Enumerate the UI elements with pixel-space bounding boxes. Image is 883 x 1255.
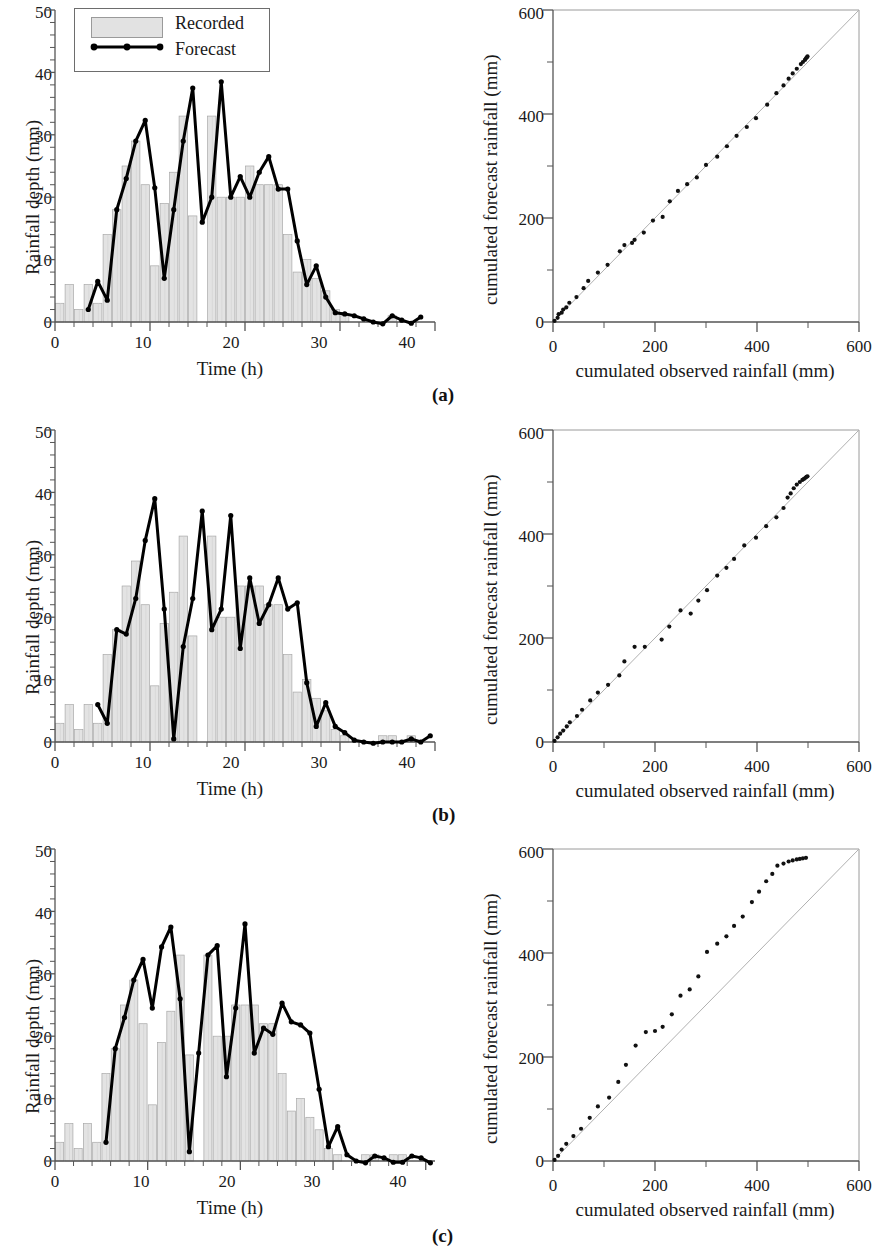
scatter-xtick-400: 400 (742, 757, 772, 777)
ytick-10: 10 (10, 671, 52, 691)
xtick-10: 10 (128, 1172, 154, 1192)
panel-c-hyetograph-plot (55, 849, 435, 1161)
panel-b-hyetograph: Rainfall depth (mm) 50 40 30 20 10 0 0 1… (0, 420, 450, 810)
ytick-20: 20 (10, 1028, 52, 1048)
scatter-ytick-0: 0 (488, 1152, 544, 1172)
ytick-0: 0 (10, 313, 52, 333)
legend-forecast-label: Forecast (175, 39, 236, 60)
ytick-20: 20 (10, 609, 52, 629)
scatter-ytick-400: 400 (488, 946, 544, 966)
panel-a-hyetograph-xlabel: Time (h) (130, 358, 330, 380)
scatter-xtick-200: 200 (640, 1176, 670, 1196)
legend-recorded-label: Recorded (175, 13, 244, 34)
panel-c-scatter: cumulated forecast rainfall (mm) 600 400… (450, 832, 883, 1227)
ytick-10: 10 (10, 251, 52, 271)
scatter-ytick-200: 200 (488, 630, 544, 650)
panel-b-scatter: cumulated forecast rainfall (mm) 600 400… (450, 420, 883, 810)
panel-a-scatter: cumulated forecast rainfall (mm) 600 400… (450, 0, 883, 390)
scatter-ytick-200: 200 (488, 210, 544, 230)
scatter-xtick-0: 0 (538, 1176, 568, 1196)
xtick-20: 20 (218, 753, 244, 773)
panel-c-scatter-plot (553, 849, 859, 1161)
ytick-50: 50 (10, 842, 52, 862)
xtick-0: 0 (42, 333, 68, 353)
xtick-20: 20 (218, 333, 244, 353)
ytick-40: 40 (10, 904, 52, 924)
ytick-0: 0 (10, 1152, 52, 1172)
panel-b-scatter-xlabel: cumulated observed rainfall (mm) (545, 780, 865, 802)
xtick-30: 30 (306, 333, 332, 353)
xtick-10: 10 (130, 753, 156, 773)
panel-b: Rainfall depth (mm) 50 40 30 20 10 0 0 1… (0, 420, 883, 838)
ytick-40: 40 (10, 65, 52, 85)
scatter-xtick-200: 200 (640, 337, 670, 357)
panel-label-b: (b) (432, 804, 455, 826)
panel-c-scatter-ylabel: cumulated forecast rainfall (mm) (480, 893, 502, 1144)
scatter-xtick-0: 0 (538, 337, 568, 357)
scatter-xtick-400: 400 (742, 1176, 772, 1196)
scatter-ytick-600: 600 (488, 4, 544, 24)
panel-c: Rainfall depth (mm) 50 40 30 20 10 0 0 1… (0, 832, 883, 1255)
ytick-0: 0 (10, 733, 52, 753)
scatter-xtick-200: 200 (640, 757, 670, 777)
panel-c-hyetograph: Rainfall depth (mm) 50 40 30 20 10 0 0 1… (0, 832, 450, 1227)
panel-b-scatter-plot (553, 430, 859, 742)
scatter-ytick-200: 200 (488, 1049, 544, 1069)
panel-c-hyetograph-xlabel: Time (h) (130, 1197, 330, 1219)
rainfall-forecast-figure: Rainfall depth (mm) 50 40 30 20 10 0 0 1… (0, 0, 883, 1255)
scatter-xtick-600: 600 (844, 1176, 874, 1196)
legend-recorded-swatch (91, 17, 163, 38)
ytick-30: 30 (10, 127, 52, 147)
scatter-ytick-400: 400 (488, 107, 544, 127)
ytick-30: 30 (10, 547, 52, 567)
panel-a-scatter-xlabel: cumulated observed rainfall (mm) (545, 360, 865, 382)
panel-b-hyetograph-plot (55, 430, 435, 742)
panel-b-hyetograph-xlabel: Time (h) (130, 778, 330, 800)
ytick-50: 50 (10, 3, 52, 23)
panel-label-a: (a) (432, 384, 454, 406)
panel-a-hyetograph: Rainfall depth (mm) 50 40 30 20 10 0 0 1… (0, 0, 450, 390)
ytick-10: 10 (10, 1090, 52, 1110)
scatter-xtick-0: 0 (538, 757, 568, 777)
scatter-ytick-600: 600 (488, 843, 544, 863)
panel-b-scatter-ylabel: cumulated forecast rainfall (mm) (480, 474, 502, 725)
panel-c-scatter-xlabel: cumulated observed rainfall (mm) (545, 1199, 865, 1221)
panel-label-c: (c) (432, 1225, 453, 1247)
legend-forecast-swatch (89, 40, 165, 54)
xtick-0: 0 (42, 753, 68, 773)
panel-a: Rainfall depth (mm) 50 40 30 20 10 0 0 1… (0, 0, 883, 418)
scatter-xtick-400: 400 (742, 337, 772, 357)
scatter-xtick-600: 600 (844, 337, 874, 357)
xtick-10: 10 (130, 333, 156, 353)
xtick-30: 30 (306, 753, 332, 773)
scatter-ytick-400: 400 (488, 527, 544, 547)
xtick-40: 40 (385, 1172, 411, 1192)
xtick-40: 40 (394, 333, 420, 353)
ytick-20: 20 (10, 189, 52, 209)
ytick-30: 30 (10, 966, 52, 986)
scatter-ytick-0: 0 (488, 733, 544, 753)
panel-a-scatter-plot (553, 10, 859, 322)
panel-a-scatter-ylabel: cumulated forecast rainfall (mm) (480, 54, 502, 305)
xtick-30: 30 (299, 1172, 325, 1192)
scatter-xtick-600: 600 (844, 757, 874, 777)
xtick-20: 20 (214, 1172, 240, 1192)
ytick-40: 40 (10, 485, 52, 505)
xtick-40: 40 (394, 753, 420, 773)
scatter-ytick-600: 600 (488, 424, 544, 444)
scatter-ytick-0: 0 (488, 313, 544, 333)
ytick-50: 50 (10, 423, 52, 443)
xtick-0: 0 (42, 1172, 68, 1192)
